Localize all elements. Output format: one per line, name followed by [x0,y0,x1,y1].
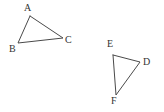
triangle-def-outline [113,55,140,95]
vertex-label-b: B [9,44,16,54]
geometry-figure-canvas: A B C E D F [0,0,164,112]
vertex-label-a: A [24,3,31,13]
triangles-drawing [0,0,164,112]
vertex-label-f: F [111,96,117,106]
vertex-label-e: E [107,39,113,49]
vertex-label-c: C [65,35,72,45]
triangle-abc-outline [18,16,63,43]
vertex-label-d: D [143,57,150,67]
